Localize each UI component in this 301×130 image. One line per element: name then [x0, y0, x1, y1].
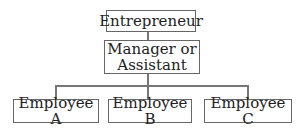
employee-c-label: Employee C [205, 95, 291, 127]
connector-root-middle [147, 32, 149, 40]
employee-a-box: Employee A [13, 99, 99, 123]
entrepreneur-label: Entrepreneur [99, 13, 203, 29]
employee-b-label: Employee B [109, 95, 191, 127]
employee-b-box: Employee B [108, 99, 192, 123]
connector-horizontal-bar [55, 85, 248, 87]
employee-a-label: Employee A [14, 95, 98, 127]
employee-c-box: Employee C [204, 99, 292, 123]
manager-label-line2: Assistant [117, 57, 186, 73]
entrepreneur-box: Entrepreneur [106, 10, 196, 32]
manager-label-line1: Manager or [107, 41, 197, 57]
manager-box: Manager or Assistant [104, 40, 200, 74]
